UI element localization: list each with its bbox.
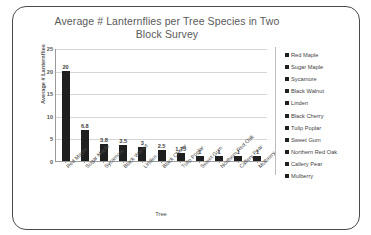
chart-legend: Red MapleSugar MapleSycamoreBlack Walnut… xyxy=(285,49,363,182)
x-label-slot: Tulip Poplar xyxy=(171,163,190,209)
x-axis-category-labels: Red MapleSugar MapleSycamoreBlack Walnut… xyxy=(55,163,267,209)
legend-item-label: Callery Pear xyxy=(291,161,322,167)
bar-series: 206.83.83.532.51.751111 xyxy=(56,49,267,161)
chart-card: Average # Lanternflies per Tree Species … xyxy=(12,6,360,230)
x-label-slot: Linden xyxy=(132,163,151,209)
plot-wrapper: Average # Lanternflies 2520151050 206.83… xyxy=(13,7,359,229)
y-axis-tick-label: 5 xyxy=(33,136,53,142)
legend-item[interactable]: Northern Red Oak xyxy=(285,146,363,158)
bar-value-label: 20 xyxy=(62,64,68,70)
bar-group[interactable]: 3.5 xyxy=(114,49,133,161)
x-label-slot: Northern Red Oak xyxy=(209,163,228,209)
legend-swatch-icon xyxy=(285,150,289,154)
y-axis-tick-label: 20 xyxy=(33,69,53,75)
legend-item[interactable]: Red Maple xyxy=(285,49,363,61)
bar-group[interactable]: 2.5 xyxy=(152,49,171,161)
legend-swatch-icon xyxy=(285,114,289,118)
legend-item[interactable]: Sycamore xyxy=(285,73,363,85)
x-label-slot: Red Maple xyxy=(55,163,74,209)
legend-item[interactable]: Callery Pear xyxy=(285,158,363,170)
legend-swatch-icon xyxy=(285,53,289,57)
x-axis-title: Tree xyxy=(55,211,267,217)
legend-item-label: Sugar Maple xyxy=(291,64,323,70)
x-label-slot: Mulberry xyxy=(248,163,267,209)
legend-swatch-icon xyxy=(285,89,289,93)
legend-swatch-icon xyxy=(285,65,289,69)
legend-item-label: Northern Red Oak xyxy=(291,149,337,155)
legend-item-label: Red Maple xyxy=(291,52,319,58)
plot-area: 206.83.83.532.51.751111 xyxy=(55,49,267,162)
legend-item-label: Black Walnut xyxy=(291,88,324,94)
x-label-slot: Sycamore xyxy=(94,163,113,209)
y-axis-tick-label: 15 xyxy=(33,91,53,97)
legend-item-label: Black Cherry xyxy=(291,113,324,119)
legend-swatch-icon xyxy=(285,101,289,105)
bar-value-label: 3.5 xyxy=(119,138,127,144)
x-label-slot: Black Cherry xyxy=(151,163,170,209)
legend-swatch-icon xyxy=(285,77,289,81)
legend-swatch-icon xyxy=(285,138,289,142)
legend-item[interactable]: Sugar Maple xyxy=(285,61,363,73)
legend-swatch-icon xyxy=(285,162,289,166)
legend-item[interactable]: Linden xyxy=(285,97,363,109)
bar-group[interactable]: 6.8 xyxy=(75,49,94,161)
bar-value-label: 2.5 xyxy=(158,143,166,149)
legend-item[interactable]: Black Walnut xyxy=(285,85,363,97)
legend-item-label: Tulip Poplar xyxy=(291,125,321,131)
legend-item[interactable]: Tulip Poplar xyxy=(285,122,363,134)
bar[interactable] xyxy=(62,71,70,161)
legend-item[interactable]: Black Cherry xyxy=(285,109,363,121)
y-axis-tick-label: 10 xyxy=(33,114,53,120)
legend-swatch-icon xyxy=(285,126,289,130)
legend-item[interactable]: Sweet Gum xyxy=(285,134,363,146)
legend-item[interactable]: Mulberry xyxy=(285,170,363,182)
legend-item-label: Mulberry xyxy=(291,173,313,179)
x-label-slot: Sweet Gum xyxy=(190,163,209,209)
x-label-slot: Black Walnut xyxy=(113,163,132,209)
bar[interactable] xyxy=(158,150,166,161)
bar-value-label: 6.8 xyxy=(81,123,89,129)
legend-item-label: Sycamore xyxy=(291,76,317,82)
y-axis-tick-labels: 2520151050 xyxy=(33,49,53,162)
legend-swatch-icon xyxy=(285,174,289,178)
legend-divider xyxy=(275,47,276,175)
legend-item-label: Sweet Gum xyxy=(291,137,321,143)
y-axis-tick-label: 25 xyxy=(33,46,53,52)
bar-value-label: 3.8 xyxy=(100,137,108,143)
x-label-slot: Sugar Maple xyxy=(74,163,93,209)
x-label-slot: Callery Pear xyxy=(228,163,247,209)
bar-group[interactable]: 20 xyxy=(56,49,75,161)
legend-item-label: Linden xyxy=(291,100,308,106)
y-axis-tick-label: 0 xyxy=(33,159,53,165)
